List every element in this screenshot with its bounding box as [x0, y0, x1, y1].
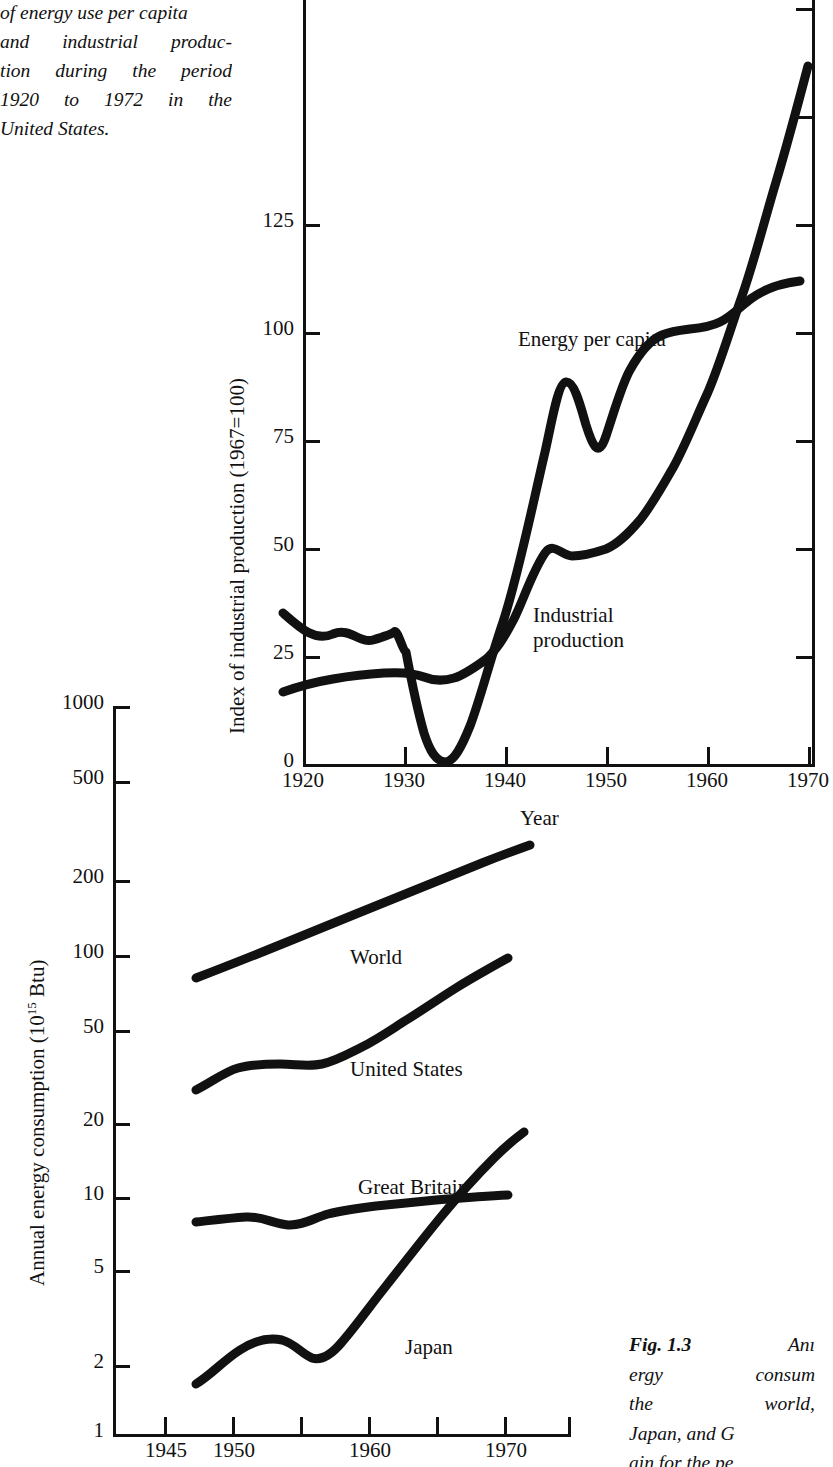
caption-bottom-line-3: the world, [629, 1389, 815, 1419]
caption-bottom-line-2: ergy consum [629, 1360, 815, 1390]
curve-industrial-production [283, 66, 808, 692]
curve-united-states [196, 958, 508, 1090]
caption-bottom-line-1: Fig. 1.3 Anı [629, 1330, 815, 1360]
curve-japan [196, 1132, 524, 1384]
curve-world [196, 845, 530, 978]
figure-caption-bottom: Fig. 1.3 Anı ergy consum the world, Japa… [629, 1330, 815, 1467]
caption-bottom-line-5: ain for the pe [629, 1448, 815, 1467]
caption-bottom-line-4: Japan, and G [629, 1419, 815, 1449]
caption-bottom-fig-number: Fig. 1.3 [629, 1330, 691, 1360]
